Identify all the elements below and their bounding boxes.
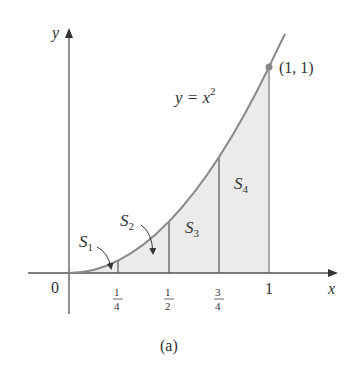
svg-text:1: 1 — [165, 286, 171, 298]
region-label-s1: S1 — [79, 232, 93, 253]
tick-quarter: 1 4 — [113, 286, 123, 312]
point-label: (1, 1) — [279, 59, 314, 77]
tick-half: 1 2 — [164, 286, 174, 312]
point-marker — [266, 64, 273, 71]
region-label-s2: S2 — [120, 211, 134, 232]
svg-text:4: 4 — [215, 300, 221, 312]
svg-text:4: 4 — [114, 300, 120, 312]
figure-caption: (a) — [160, 337, 178, 355]
y-axis-label: y — [50, 24, 60, 42]
svg-text:3: 3 — [215, 286, 221, 298]
x-axis-label: x — [327, 280, 335, 297]
svg-text:2: 2 — [165, 300, 171, 312]
svg-text:1: 1 — [114, 286, 120, 298]
curve-label: y = x2 — [173, 85, 216, 107]
curve-label-base: y = x — [173, 88, 211, 107]
curve-label-exponent: 2 — [210, 85, 216, 97]
origin-label: 0 — [51, 279, 59, 296]
tick-one: 1 — [265, 280, 273, 297]
tick-three-quarter: 3 4 — [214, 286, 224, 312]
area-under-parabola-figure: y x 0 (1, 1) y = x2 1 4 1 2 3 4 1 S1 S2 … — [0, 0, 360, 375]
